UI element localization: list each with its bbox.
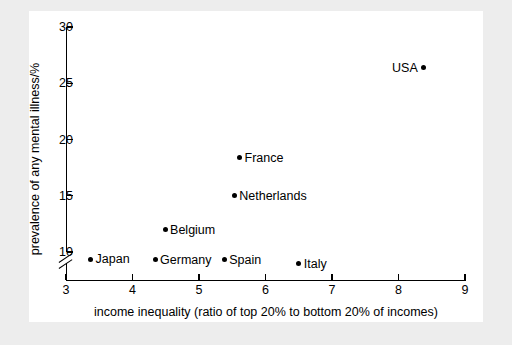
y-tick-label: 10	[47, 246, 73, 259]
y-tick-label: 20	[47, 134, 73, 147]
x-axis-title: income inequality (ratio of top 20% to b…	[66, 305, 466, 319]
x-tick-mark	[265, 274, 266, 280]
data-point-marker	[88, 257, 93, 262]
x-tick-label: 8	[387, 284, 411, 297]
data-point-label: Belgium	[170, 224, 215, 237]
x-tick-mark	[398, 274, 399, 280]
x-axis-line	[66, 280, 466, 281]
data-point-label: Germany	[160, 254, 211, 267]
data-point-marker	[222, 257, 227, 262]
y-tick-label: 30	[47, 21, 73, 34]
data-point-label: Japan	[96, 253, 130, 266]
data-point-label: Spain	[229, 254, 261, 267]
y-axis-title: prevalence of any mental illness/%	[28, 44, 42, 274]
data-point-label: Netherlands	[239, 190, 306, 203]
data-point-label: Italy	[304, 258, 327, 271]
y-tick-label: 25	[47, 77, 73, 90]
x-tick-label: 9	[453, 284, 477, 297]
data-point-label: USA	[392, 62, 424, 75]
x-tick-mark	[464, 274, 465, 280]
x-tick-label: 4	[121, 284, 145, 297]
plot-area-background	[29, 11, 483, 322]
x-tick-mark	[132, 274, 133, 280]
y-tick-label: 15	[47, 190, 73, 203]
x-tick-mark	[331, 274, 332, 280]
x-tick-label: 6	[254, 284, 278, 297]
data-point-marker	[232, 193, 237, 198]
x-tick-label: 3	[54, 284, 78, 297]
data-point-label: France	[245, 152, 284, 165]
data-point-marker	[163, 227, 168, 232]
x-tick-label: 5	[187, 284, 211, 297]
x-tick-label: 7	[320, 284, 344, 297]
x-tick-mark	[65, 274, 66, 280]
scatter-chart-figure: 1015202530 3456789 JapanGermanySpainItal…	[0, 0, 512, 345]
x-tick-mark	[198, 274, 199, 280]
